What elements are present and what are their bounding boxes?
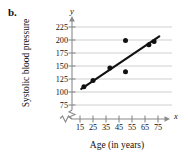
data-point <box>123 38 128 43</box>
y-axis-arrow <box>69 16 75 22</box>
data-point <box>107 66 112 71</box>
data-point <box>91 78 96 83</box>
plot-area <box>0 0 188 160</box>
x-axis-break <box>60 116 72 122</box>
data-point <box>81 84 86 89</box>
x-axis <box>60 116 170 123</box>
figure-panel: b. Systolic blood pressure Age (in years… <box>0 0 188 160</box>
data-point <box>123 69 128 74</box>
x-axis-letter: x <box>174 111 178 121</box>
x-axis-arrow <box>165 116 171 121</box>
data-point <box>152 39 157 44</box>
y-axis <box>69 16 76 119</box>
data-point <box>146 42 151 47</box>
y-axis-letter: y <box>70 6 74 16</box>
